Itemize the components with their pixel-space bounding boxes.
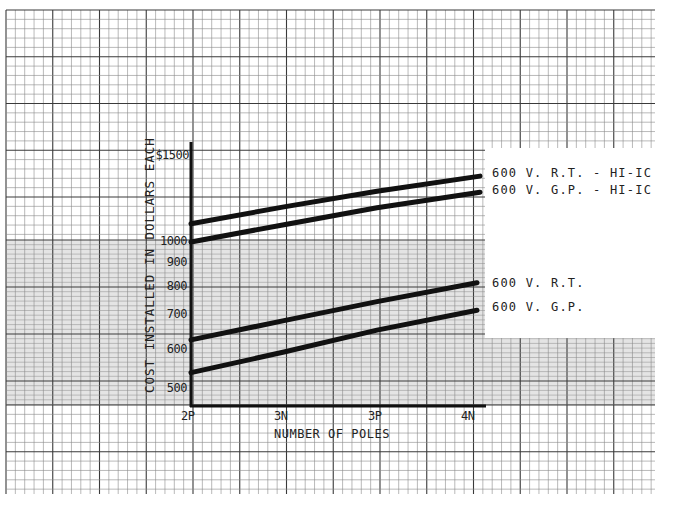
legend-rt: 600 V. R.T.	[492, 276, 585, 290]
legend-rt-hi-ic: 600 V. R.T. - HI-IC	[492, 166, 652, 180]
legend-gp: 600 V. G.P.	[492, 300, 585, 314]
x-tick-3n: 3N	[274, 409, 287, 423]
x-tick-2p: 2P	[181, 409, 194, 423]
x-tick-3p: 3P	[368, 409, 381, 423]
x-axis-title: NUMBER OF POLES	[274, 427, 390, 441]
y-axis-title: COST INSTALLED IN DOLLARS EACH	[142, 137, 157, 393]
legend-gp-hi-ic: 600 V. G.P. - HI-IC	[492, 183, 652, 197]
x-tick-4n: 4N	[461, 409, 474, 423]
